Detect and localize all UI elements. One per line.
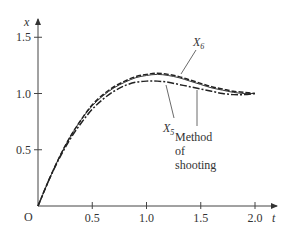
annotation-x6: X6: [181, 35, 204, 74]
svg-text:Method: Method: [175, 130, 212, 144]
y-tick-label: 1.0: [16, 87, 31, 101]
series-line-x5: [38, 81, 255, 206]
svg-text:X6: X6: [192, 35, 204, 51]
series-group: [38, 73, 255, 206]
svg-text:X5: X5: [162, 121, 174, 137]
annotation-method-of-shooting: Method of shooting: [175, 90, 216, 172]
svg-text:of: of: [175, 144, 185, 158]
x-tick-label: 0.5: [85, 211, 100, 225]
x-tick-label: 1.0: [139, 211, 154, 225]
x-axis-label: t: [272, 211, 276, 225]
origin-label: O: [24, 210, 33, 224]
svg-text:shooting: shooting: [175, 158, 216, 172]
annotation-x5: X5: [162, 85, 174, 137]
y-tick-label: 0.5: [16, 143, 31, 157]
x-tick-label: 2.0: [248, 211, 263, 225]
x-ticks: 0.51.01.52.0: [85, 202, 263, 225]
y-tick-label: 1.5: [16, 30, 31, 44]
chart: 0.51.01.5 0.51.01.52.0 x t O X6 X5 Metho…: [0, 0, 293, 231]
x-tick-label: 1.5: [193, 211, 208, 225]
y-axis-label: x: [23, 15, 30, 29]
